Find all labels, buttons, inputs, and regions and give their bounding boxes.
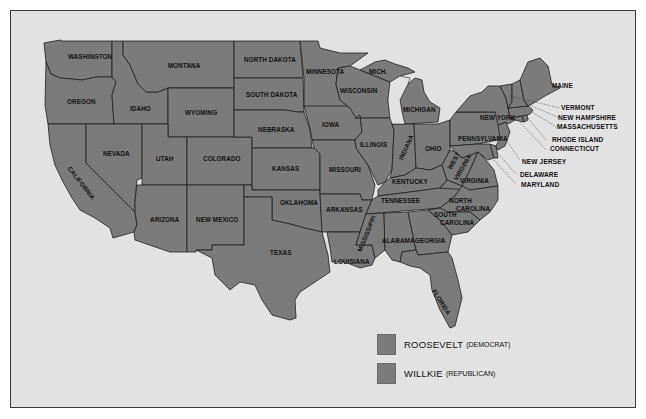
label-missouri: MISSOURI <box>329 166 361 173</box>
leader-new-jersey <box>506 140 520 160</box>
label-nebraska: NEBRASKA <box>258 126 294 133</box>
label-ohio: OHIO <box>425 145 442 152</box>
legend: ROOSEVELT (DEMOCRAT) WILLKIE (REPUBLICAN… <box>377 333 510 391</box>
state-washington[interactable] <box>44 40 112 80</box>
legend-candidate-roosevelt: ROOSEVELT <box>404 339 463 350</box>
label-illinois: ILLINOIS <box>360 141 387 148</box>
label-oregon: OREGON <box>67 98 96 105</box>
label-vermont: VERMONT <box>561 104 595 111</box>
label-alabama: ALABAMA <box>382 237 415 244</box>
label-kansas: KANSAS <box>272 165 299 172</box>
leader-massachusetts <box>532 112 558 128</box>
leader-rhode-island <box>528 118 546 140</box>
label-michigan: MICHIGAN <box>403 106 436 113</box>
label-tennessee: TENNESSEE <box>381 197 420 204</box>
label-nevada: NEVADA <box>103 150 130 157</box>
label-wisconsin: WISCONSIN <box>340 87 377 94</box>
label-utah: UTAH <box>156 155 173 162</box>
label-virginia: VIRGINIA <box>460 177 489 184</box>
label-maryland: MARYLAND <box>521 181 559 188</box>
label-montana: MONTANA <box>168 62 200 69</box>
label-louisiana: LOUISIANA <box>334 258 370 265</box>
label-washington: WASHINGTON <box>68 53 112 60</box>
legend-party-roosevelt: (DEMOCRAT) <box>466 341 510 348</box>
label-new-hampshire: NEW HAMPSHIRE <box>558 114 616 121</box>
label-pennsylvania: PENNSYLVANIA <box>458 135 508 142</box>
label-arkansas: ARKANSAS <box>326 206 362 213</box>
label-delaware: DELAWARE <box>520 171 558 178</box>
label-new-jersey: NEW JERSEY <box>522 158 566 165</box>
legend-swatch-willkie <box>377 363 396 384</box>
label-maine: MAINE <box>552 82 573 89</box>
label-minnesota: MINNESOTA <box>306 68 344 75</box>
label-kentucky: KENTUCKY <box>392 178 428 185</box>
us-map <box>0 0 646 419</box>
state-florida[interactable] <box>400 250 462 328</box>
label-new-york: NEW YORK <box>480 114 515 121</box>
label-georgia: GEORGIA <box>415 237 445 244</box>
label-new-mexico: NEW MEXICO <box>196 216 238 223</box>
label-north-dakota: NORTH DAKOTA <box>244 56 296 63</box>
label-iowa: IOWA <box>322 121 339 128</box>
legend-swatch-roosevelt <box>377 334 396 355</box>
label-south-dakota: SOUTH DAKOTA <box>246 91 297 98</box>
label-oklahoma: OKLAHOMA <box>280 199 318 206</box>
legend-party-willkie: (REPUBLICAN) <box>446 370 495 377</box>
label-south-carolina-2: CAROLINA <box>440 219 474 226</box>
label-north-carolina-2: CAROLINA <box>456 205 490 212</box>
label-connecticut: CONNECTICUT <box>550 145 599 152</box>
label-idaho: IDAHO <box>130 105 151 112</box>
label-texas: TEXAS <box>270 249 292 256</box>
legend-candidate-willkie: WILLKIE <box>404 368 443 379</box>
label-wyoming: WYOMING <box>185 109 217 116</box>
label-south-carolina-1: SOUTH <box>434 211 457 218</box>
label-mich-upper: MICH. <box>369 68 387 75</box>
label-massachusetts: MASSACHUSETTS <box>557 123 618 130</box>
label-north-carolina-1: NORTH <box>449 197 472 204</box>
label-arizona: ARIZONA <box>150 216 179 223</box>
legend-item-roosevelt: ROOSEVELT (DEMOCRAT) <box>377 333 510 355</box>
leader-delaware <box>497 152 516 174</box>
label-colorado: COLORADO <box>203 155 241 162</box>
label-rhode-island: RHODE ISLAND <box>552 136 603 143</box>
legend-item-willkie: WILLKIE (REPUBLICAN) <box>377 362 510 384</box>
